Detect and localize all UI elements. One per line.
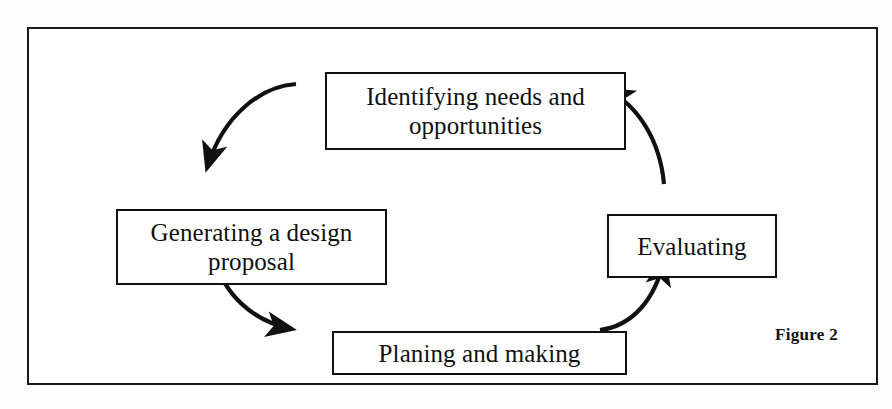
cycle-node-generating-label: Generating a design proposal xyxy=(145,218,359,276)
cycle-node-evaluating[interactable]: Evaluating xyxy=(607,214,777,278)
figure-caption: Figure 2 xyxy=(775,325,838,345)
figure-border: Identifying needs and opportunities Gene… xyxy=(27,27,878,385)
cycle-node-generating[interactable]: Generating a design proposal xyxy=(116,209,387,285)
cycle-node-identifying-line1: Identifying needs and xyxy=(366,83,585,110)
cycle-node-evaluating-label: Evaluating xyxy=(631,232,752,261)
cycle-node-planing-label: Planing and making xyxy=(373,339,587,368)
arrow-identifying-to-generating xyxy=(207,84,296,168)
cycle-node-identifying-label: Identifying needs and opportunities xyxy=(360,82,591,140)
figure-container: Identifying needs and opportunities Gene… xyxy=(0,0,892,409)
cycle-node-generating-line1: Generating a design xyxy=(151,219,353,246)
cycle-node-identifying-line2: opportunities xyxy=(409,112,542,139)
cycle-node-generating-line2: proposal xyxy=(208,248,295,275)
cycle-node-planing[interactable]: Planing and making xyxy=(332,331,627,375)
cycle-node-identifying[interactable]: Identifying needs and opportunities xyxy=(325,72,626,150)
